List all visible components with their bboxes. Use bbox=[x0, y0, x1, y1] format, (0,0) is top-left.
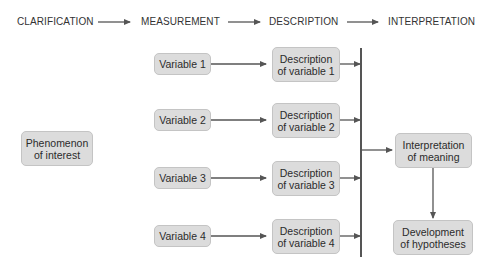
interpretation-box: Interpretation of meaning bbox=[395, 133, 472, 168]
description-4-box: Description of variable 4 bbox=[272, 219, 340, 254]
description-1-box: Description of variable 1 bbox=[272, 47, 340, 82]
variable-2-box: Variable 2 bbox=[154, 109, 211, 131]
description-2-box: Description of variable 2 bbox=[272, 103, 340, 138]
variable-4-box: Variable 4 bbox=[154, 225, 211, 247]
phenomenon-box: Phenomenon of interest bbox=[21, 131, 93, 166]
hypotheses-box: Development of hypotheses bbox=[393, 220, 473, 255]
variable-3-box: Variable 3 bbox=[154, 167, 211, 189]
variable-1-box: Variable 1 bbox=[154, 53, 211, 75]
description-3-box: Description of variable 3 bbox=[272, 161, 340, 196]
